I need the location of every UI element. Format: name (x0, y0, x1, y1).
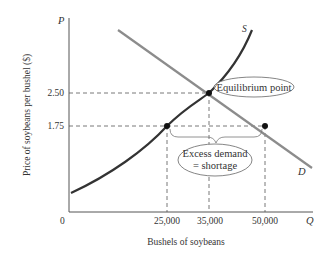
supply-label: S (242, 24, 247, 34)
equilibrium-point (206, 90, 212, 96)
x-axis-title: Bushels of soybeans (147, 237, 225, 247)
y-tick-2-50: 2.50 (47, 88, 64, 98)
demand-point-175 (262, 123, 268, 129)
y-axis-symbol: P (57, 15, 65, 26)
origin-label: 0 (60, 216, 65, 226)
y-tick-1-75: 1.75 (47, 121, 64, 131)
equilibrium-label: Equilibrium point (217, 82, 292, 93)
x-tick-35000: 35,000 (197, 216, 223, 226)
x-tick-50000: 50,000 (252, 216, 278, 226)
x-axis-symbol: Q (306, 215, 314, 226)
demand-label: D (297, 166, 306, 177)
supply-demand-chart: Equilibrium point Excess demand = shorta… (0, 0, 331, 259)
supply-point-175 (164, 123, 170, 129)
shortage-label-line1: Excess demand (182, 148, 248, 159)
shortage-brace (170, 129, 262, 143)
x-tick-25000: 25,000 (154, 216, 180, 226)
y-axis-title: Price of soybeans per bushel ($) (22, 54, 33, 176)
shortage-label-line2: = shortage (193, 160, 237, 171)
